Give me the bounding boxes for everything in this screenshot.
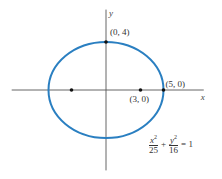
point-focus-left (70, 88, 74, 92)
equation-term-y: y2 16 (168, 133, 179, 155)
label-vertex-right: (5, 0) (166, 79, 186, 89)
x-axis-label: x (200, 92, 205, 102)
equation-rhs: = 1 (181, 139, 193, 149)
point-vertex-top (104, 40, 108, 44)
term1-exponent: 2 (154, 134, 157, 140)
label-focus-right: (3, 0) (130, 94, 150, 104)
ellipse-equation: x2 25 + y2 16 = 1 (148, 133, 193, 155)
term2-denominator: 16 (168, 146, 179, 155)
y-axis-label: y (108, 8, 113, 18)
point-focus-right (139, 88, 143, 92)
equation-term-x: x2 25 (148, 133, 159, 155)
term2-exponent: 2 (174, 134, 177, 140)
label-vertex-top: (0, 4) (110, 27, 130, 37)
equation-plus: + (161, 139, 166, 149)
ellipse-diagram: x y (0, 4)(5, 0)(3, 0) x2 25 + y2 16 = 1 (0, 0, 222, 179)
term1-denominator: 25 (148, 146, 159, 155)
points-group: (0, 4)(5, 0)(3, 0) (70, 27, 185, 104)
